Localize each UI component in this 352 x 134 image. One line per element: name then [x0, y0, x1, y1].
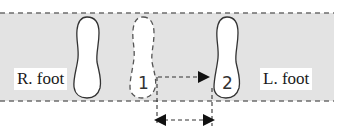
footstep-diagram: R. foot L. foot 1 2 — [0, 0, 352, 134]
distance-arrowhead-left-icon — [154, 114, 166, 126]
right-foot-label: R. foot — [14, 68, 67, 90]
step-2-number: 2 — [222, 73, 233, 93]
step-1-number: 1 — [138, 73, 149, 93]
distance-arrowhead-right-icon — [203, 114, 215, 126]
diagram-canvas — [0, 0, 352, 134]
right-footprint-icon — [74, 17, 101, 98]
left-foot-label: L. foot — [260, 68, 312, 90]
